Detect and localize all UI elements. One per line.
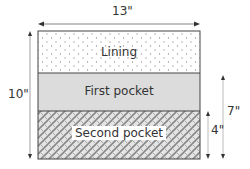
height-label: 10" (8, 87, 29, 101)
second-pocket-height-label: 4" (211, 123, 224, 137)
lining-label: Lining (38, 45, 200, 59)
second-pocket-label: Second pocket (38, 126, 200, 140)
width-label: 13" (112, 4, 133, 18)
first-pocket-height-label: 7" (227, 104, 240, 118)
first-pocket-label: First pocket (38, 84, 200, 98)
